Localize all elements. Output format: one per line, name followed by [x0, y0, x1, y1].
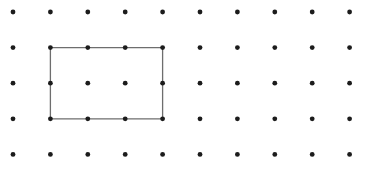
grid-dot[interactable] — [85, 152, 90, 157]
grid-dot[interactable] — [48, 45, 53, 50]
grid-dot[interactable] — [48, 81, 53, 86]
grid-dot[interactable] — [235, 116, 240, 121]
grid-dot[interactable] — [123, 152, 128, 157]
grid-dot[interactable] — [347, 116, 352, 121]
grid-dot[interactable] — [85, 10, 90, 15]
grid-dot[interactable] — [347, 10, 352, 15]
grid-dot[interactable] — [310, 81, 315, 86]
grid-dot[interactable] — [235, 45, 240, 50]
grid-dot[interactable] — [11, 45, 16, 50]
grid-dot[interactable] — [48, 152, 53, 157]
grid-dot[interactable] — [160, 10, 165, 15]
grid-dot[interactable] — [160, 152, 165, 157]
grid-dot[interactable] — [11, 81, 16, 86]
grid-dot[interactable] — [123, 45, 128, 50]
grid-dot[interactable] — [310, 10, 315, 15]
grid-dot[interactable] — [123, 116, 128, 121]
grid-dot[interactable] — [123, 10, 128, 15]
grid-dot[interactable] — [85, 116, 90, 121]
grid-dot[interactable] — [85, 45, 90, 50]
grid-dot[interactable] — [347, 81, 352, 86]
grid-dot[interactable] — [235, 10, 240, 15]
grid-dot[interactable] — [310, 45, 315, 50]
grid-dot[interactable] — [272, 45, 277, 50]
grid-dot[interactable] — [347, 152, 352, 157]
grid-dot[interactable] — [272, 116, 277, 121]
grid-dot[interactable] — [11, 10, 16, 15]
grid-dot[interactable] — [198, 116, 203, 121]
grid-dot[interactable] — [235, 81, 240, 86]
grid-dot[interactable] — [272, 81, 277, 86]
geoboard-canvas — [0, 0, 367, 173]
grid-dot[interactable] — [160, 81, 165, 86]
grid-dot[interactable] — [235, 152, 240, 157]
grid-dot[interactable] — [310, 152, 315, 157]
grid-dot[interactable] — [347, 45, 352, 50]
grid-dot[interactable] — [11, 152, 16, 157]
grid-dot[interactable] — [48, 10, 53, 15]
grid-dot[interactable] — [123, 81, 128, 86]
grid-dot[interactable] — [198, 45, 203, 50]
grid-dot[interactable] — [310, 116, 315, 121]
grid-dot[interactable] — [48, 116, 53, 121]
canvas-background — [0, 0, 367, 173]
grid-dot[interactable] — [160, 45, 165, 50]
grid-dot[interactable] — [160, 116, 165, 121]
grid-dot[interactable] — [198, 81, 203, 86]
geoboard-figure — [0, 0, 367, 173]
grid-dot[interactable] — [272, 10, 277, 15]
grid-dot[interactable] — [11, 116, 16, 121]
grid-dot[interactable] — [198, 10, 203, 15]
grid-dot[interactable] — [85, 81, 90, 86]
grid-dot[interactable] — [272, 152, 277, 157]
grid-dot[interactable] — [198, 152, 203, 157]
